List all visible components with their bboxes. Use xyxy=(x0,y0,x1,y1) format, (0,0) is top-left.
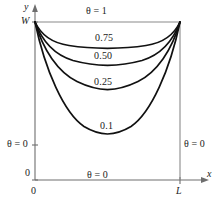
y-axis-arrowhead xyxy=(32,4,38,12)
y-max-label-W: W xyxy=(21,16,29,26)
x-axis-label: x xyxy=(207,169,211,179)
contour-label-0-1: 0.1 xyxy=(100,121,113,131)
boundary-label-left: θ = 0 xyxy=(7,139,28,149)
y-axis-label: y xyxy=(24,2,28,12)
contour-label-0-50: 0.50 xyxy=(94,51,112,61)
contour-label-0-75: 0.75 xyxy=(95,33,113,43)
boundary-label-right: θ = 0 xyxy=(184,139,205,149)
boundary-label-top: θ = 1 xyxy=(86,6,107,16)
boundary-label-bottom: θ = 0 xyxy=(87,170,108,180)
contour-plot-figure: y x W L 0 0 θ = 1 θ = 0 θ = 0 θ = 0 0.75… xyxy=(0,0,220,201)
y-origin-tick-label: 0 xyxy=(25,168,30,178)
plot-canvas xyxy=(0,0,220,201)
x-origin-tick-label: 0 xyxy=(31,186,36,196)
contour-label-0-25: 0.25 xyxy=(94,77,112,87)
x-max-label-L: L xyxy=(176,186,182,196)
